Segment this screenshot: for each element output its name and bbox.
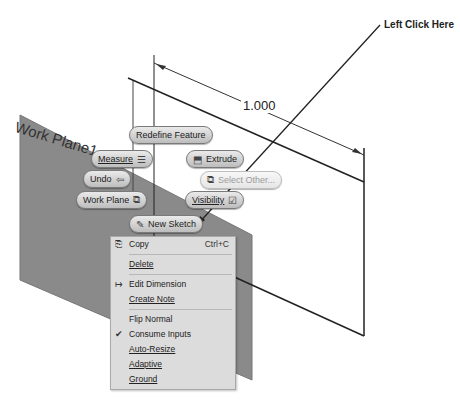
menu-item-delete[interactable]: Delete xyxy=(111,257,235,272)
measure-button[interactable]: Measure ☰ xyxy=(91,150,153,168)
work-plane-btn-label: Work Plane xyxy=(83,195,129,205)
extrude-label: Extrude xyxy=(206,154,237,164)
select-other-label: Select Other... xyxy=(218,175,275,185)
copy-shortcut: Ctrl+C xyxy=(205,237,229,252)
edit-dimension-icon: ↦ xyxy=(115,277,123,292)
menu-item-flip-normal[interactable]: Flip Normal xyxy=(111,312,235,327)
work-plane-icon: ⧉ xyxy=(133,194,140,206)
copy-icon: ⎘ xyxy=(115,237,122,252)
menu-separator xyxy=(129,254,232,255)
checkmark-icon: ✔ xyxy=(115,327,123,342)
undo-arrow-icon: ⇦ xyxy=(116,174,124,185)
select-other-button[interactable]: ⧉ Select Other... xyxy=(200,171,282,189)
select-other-icon: ⧉ xyxy=(207,174,214,186)
undo-button[interactable]: Undo ⇦ xyxy=(83,170,131,188)
callout-label: Left Click Here xyxy=(384,19,454,30)
menu-item-create-note[interactable]: Create Note xyxy=(111,292,235,307)
context-menu: ⎘ Copy Ctrl+C Delete ↦ Edit Dimension Cr… xyxy=(110,236,236,390)
new-sketch-button[interactable]: ✎ New Sketch xyxy=(129,215,203,233)
ruler-icon: ☰ xyxy=(137,154,146,165)
menu-item-auto-resize[interactable]: Auto-Resize xyxy=(111,342,235,357)
dimension-value[interactable]: 1.000 xyxy=(241,98,278,113)
work-plane-button[interactable]: Work Plane ⧉ xyxy=(76,191,147,209)
menu-separator xyxy=(129,309,232,310)
visibility-button[interactable]: Visibility ☑ xyxy=(185,191,244,209)
undo-label: Undo xyxy=(90,174,112,184)
menu-item-consume-inputs[interactable]: ✔ Consume Inputs xyxy=(111,327,235,342)
checkbox-icon: ☑ xyxy=(228,195,237,206)
extrude-icon: ⬒ xyxy=(193,154,202,165)
menu-separator xyxy=(129,274,232,275)
measure-label: Measure xyxy=(98,154,133,164)
menu-item-copy[interactable]: ⎘ Copy Ctrl+C xyxy=(111,237,235,252)
menu-item-edit-dimension[interactable]: ↦ Edit Dimension xyxy=(111,277,235,292)
extrude-button[interactable]: ⬒ Extrude xyxy=(186,150,244,168)
new-sketch-label: New Sketch xyxy=(148,219,196,229)
menu-item-ground[interactable]: Ground xyxy=(111,372,235,387)
sketch-icon: ✎ xyxy=(136,219,144,230)
redefine-feature-label: Redefine Feature xyxy=(136,130,206,140)
visibility-label: Visibility xyxy=(192,195,224,205)
redefine-feature-button[interactable]: Redefine Feature xyxy=(129,126,213,144)
menu-item-adaptive[interactable]: Adaptive xyxy=(111,357,235,372)
